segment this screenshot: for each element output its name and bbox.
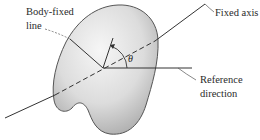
reference-direction-label-1: Reference	[200, 74, 243, 86]
theta-label: θ	[128, 53, 133, 64]
rigid-body-rotation-diagram: Body-fixed line Fixed axis Reference dir…	[0, 0, 260, 140]
fixed-axis-line-upper	[155, 4, 205, 41]
fixed-axis-label: Fixed axis	[215, 7, 258, 19]
fixed-axis-leader	[205, 4, 214, 12]
body-fixed-line-label-1: Body-fixed	[26, 6, 74, 18]
rigid-body-shape	[53, 5, 158, 134]
body-fixed-line-label-2: line	[26, 20, 42, 32]
body-fixed-line-leader	[45, 29, 70, 39]
fixed-axis-line-lower	[5, 95, 55, 118]
reference-direction-leader	[178, 68, 196, 80]
reference-direction-label-2: direction	[200, 88, 237, 100]
